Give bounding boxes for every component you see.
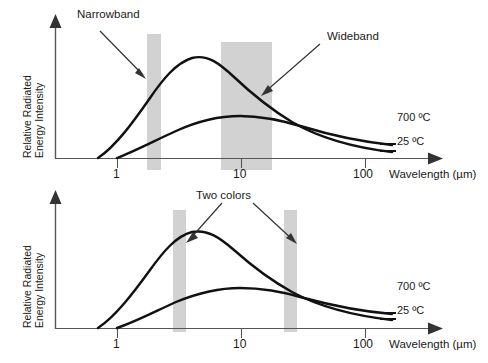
x-tick-label-10: 10: [233, 168, 246, 181]
series-label-700c-top: 700 ºC: [397, 112, 430, 124]
y-axis-arrowhead: [50, 190, 62, 204]
x-axis-arrowhead: [428, 323, 443, 335]
annotation-narrowband: Narrowband: [77, 8, 140, 20]
narrowband-band: [147, 34, 161, 170]
annotation-two-colors: Two colors: [196, 189, 251, 201]
narrowband-arrowhead: [135, 68, 146, 79]
x-tick-label-1: 1: [113, 168, 120, 181]
narrowband-arrow: [100, 31, 143, 75]
series-label-25c-top: 25 ºC: [397, 136, 424, 148]
x-tick-label-100: 100: [353, 168, 373, 181]
x-axis-arrowhead: [428, 153, 443, 165]
series-label-25c-bottom: 25 ºC: [397, 305, 424, 317]
x-axis-title-bottom: Wavelength (µm): [389, 338, 476, 350]
x-tick-label-10: 10: [233, 338, 246, 351]
series-label-700c-bottom: 700 ºC: [397, 281, 430, 293]
y-axis-arrowhead: [50, 14, 62, 28]
y-axis-label-bottom: Relative Radiated Energy Intensity: [22, 178, 45, 328]
wideband-band: [221, 42, 272, 170]
chart-panel-top: Relative Radiated Energy Intensity 1 10 …: [0, 0, 488, 181]
y-axis-label-top: Relative Radiated Energy Intensity: [22, 8, 45, 158]
curve-700c: [98, 231, 392, 328]
chart-graphic-bottom: [0, 182, 488, 363]
x-tick-label-1: 1: [113, 338, 120, 351]
annotation-wideband: Wideband: [327, 30, 379, 42]
chart-graphic-top: [0, 0, 488, 181]
x-axis-title-top: Wavelength (µm): [389, 168, 476, 180]
curve-25c: [117, 288, 392, 328]
chart-panel-bottom: Relative Radiated Energy Intensity 1 10 …: [0, 182, 488, 363]
two-colors-band-2: [284, 210, 297, 332]
wideband-arrow: [265, 44, 320, 92]
two-colors-band-1: [173, 210, 186, 332]
radiated-energy-figure: Relative Radiated Energy Intensity 1 10 …: [0, 0, 488, 363]
x-tick-label-100: 100: [353, 338, 373, 351]
